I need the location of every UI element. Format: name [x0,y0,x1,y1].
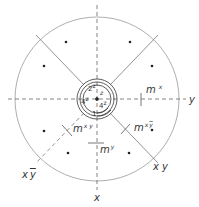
label-1: 1 [92,110,96,118]
label-z: z [99,89,104,96]
label-mx: mx [146,83,163,95]
label-x-axis: x [93,192,100,203]
label-xybar-diagonal: xy [21,169,37,180]
stereographic-diagram: 2z z 4z 4z 1 mx my mx y mxy y x x y xy [0,0,199,207]
label-my: my [100,143,115,155]
label-mxy: mx y [73,122,93,134]
label-mxybar: mxy [134,121,153,133]
diagonal-xybar-line-upper [110,35,158,85]
label-y-axis: y [188,94,196,105]
label-4z-left: 4z [81,95,89,106]
diagonal-xy-line-upper [36,35,84,85]
label-4z-right: 4z [99,99,107,110]
label-xy-diagonal: x y [152,161,169,172]
diagonal-xybar-line-lower [36,113,84,163]
